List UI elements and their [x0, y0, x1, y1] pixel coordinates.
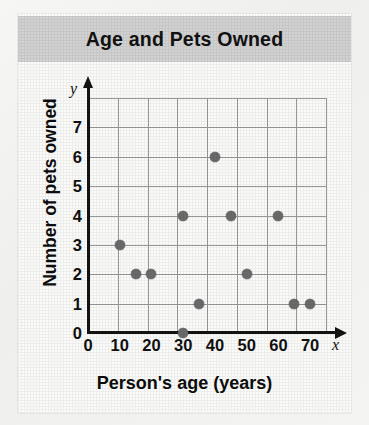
y-tick-label: 7	[62, 119, 82, 136]
scatter-point	[131, 269, 141, 279]
y-axis-line	[87, 86, 90, 333]
y-tick-label: 4	[62, 208, 82, 225]
x-tick-label: 60	[265, 336, 291, 355]
x-tick-label: 50	[234, 336, 260, 355]
y-axis-title: Number of pets owned	[40, 73, 61, 313]
y-tick-label: 5	[62, 178, 82, 195]
y-axis-arrow-icon	[83, 76, 93, 88]
grid-line-horizontal	[88, 216, 326, 217]
y-tick-label: 3	[62, 237, 82, 254]
scatter-point	[289, 299, 299, 309]
x-tick-label: 40	[202, 336, 228, 355]
x-axis-title: Person's age (years)	[18, 373, 351, 394]
scatter-point	[242, 269, 252, 279]
scatter-point	[305, 299, 315, 309]
x-axis-line	[87, 331, 337, 334]
y-tick-label: 1	[62, 296, 82, 313]
y-tick-label: 2	[62, 266, 82, 283]
grid-line-horizontal	[88, 157, 326, 158]
figure-card: Age and Pets Owned Number of pets owned …	[18, 14, 351, 413]
x-tick-label: 20	[138, 336, 164, 355]
chart-stage: Number of pets owned y x 010203040506070…	[18, 62, 351, 413]
scatter-point	[273, 211, 283, 221]
x-axis-variable-label: x	[332, 336, 339, 354]
grid-line-vertical	[326, 98, 327, 333]
y-axis-variable-label: y	[70, 80, 77, 98]
grid-line-horizontal	[88, 127, 326, 128]
scatter-point	[194, 299, 204, 309]
x-tick-label: 10	[107, 336, 133, 355]
scatter-point	[178, 211, 188, 221]
scatter-point	[226, 211, 236, 221]
grid-line-horizontal	[88, 186, 326, 187]
y-tick-label: 0	[62, 325, 82, 342]
plot-grid	[88, 98, 326, 333]
scatter-point	[115, 240, 125, 250]
grid-line-horizontal	[88, 98, 326, 99]
grid-line-horizontal	[88, 274, 326, 275]
x-tick-label: 70	[297, 336, 323, 355]
page-title: Age and Pets Owned	[86, 28, 284, 51]
y-tick-label: 6	[62, 149, 82, 166]
chart-title-band: Age and Pets Owned	[18, 16, 351, 62]
page-background: Age and Pets Owned Number of pets owned …	[0, 0, 369, 425]
x-tick-label: 30	[170, 336, 196, 355]
scatter-point	[210, 152, 220, 162]
